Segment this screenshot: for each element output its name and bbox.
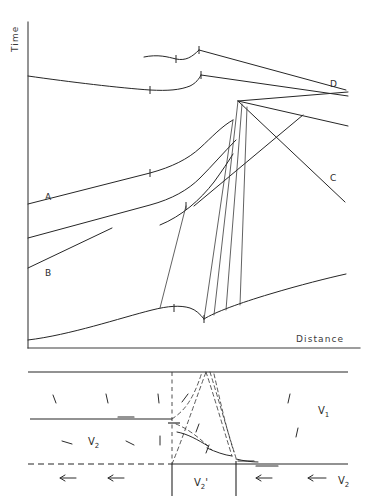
ray-fan-2 (204, 120, 233, 319)
dashed-ray-6 (176, 424, 212, 450)
branch-label-c: C (330, 173, 337, 183)
ray-fan-5 (240, 107, 247, 305)
tick-arrow-v1-1 (53, 395, 56, 403)
dashed-ray-3 (206, 372, 232, 456)
curve-bottom-left (28, 306, 204, 340)
curve-interior-arc (160, 154, 233, 225)
arrow-left-2 (108, 475, 124, 481)
arrow-left-1 (60, 475, 76, 481)
curve-d-reverse (238, 92, 348, 101)
x-axis-label: Distance (296, 334, 344, 344)
curve-d-left-segment (144, 50, 199, 60)
ray-fan-1 (160, 206, 186, 308)
tick-arrow-v1-5 (288, 394, 290, 403)
velocity-label-v2-prime: V2' (194, 477, 208, 491)
seismic-figure: A B C D Time Distance (0, 0, 368, 504)
curve-a-band-lower (28, 140, 236, 238)
tick-arrow-v1-6 (296, 428, 298, 437)
velocity-label-v2-left: V2 (88, 436, 99, 450)
upper-panel: A B C D Time Distance (10, 22, 360, 348)
curve-a-band-upper (28, 120, 233, 204)
curve-b (28, 228, 112, 268)
lower-panel: V1 V2 V2' V2 (28, 372, 349, 496)
curve-crossing-down-left (194, 115, 303, 206)
y-axis-label: Time (10, 26, 20, 53)
arrow-left-3 (256, 475, 272, 481)
tick-arrow-v2-2 (126, 441, 134, 445)
tick-arrow-v1-4 (182, 394, 188, 402)
figure-root: A B C D Time Distance (0, 0, 368, 504)
curve-bottom-right (204, 274, 346, 319)
dashed-ray-5 (214, 374, 234, 452)
scribble-segment-1 (177, 432, 208, 446)
branch-label-d: D (330, 79, 338, 89)
tick-arrow-v1-2 (106, 394, 108, 403)
curve-d-right-segment (199, 50, 346, 90)
dashed-ray-2 (172, 372, 206, 464)
curve-reverse-lower (238, 101, 348, 126)
curve-a-descending (201, 75, 348, 96)
tick-arrow-v2-4 (196, 424, 199, 432)
curve-a-ascending (28, 75, 201, 90)
branch-label-b: B (45, 268, 52, 278)
scribble-segment-2 (207, 448, 232, 456)
branch-label-a: A (45, 192, 52, 202)
velocity-label-v1: V1 (318, 405, 329, 419)
curve-c (238, 101, 345, 202)
tick-arrow-v2-1 (62, 441, 72, 444)
tick-arrow-v1-3 (158, 394, 159, 403)
velocity-label-v2-right: V2 (338, 475, 349, 489)
arrow-left-4 (308, 475, 326, 481)
ray-fan-3 (214, 101, 238, 315)
